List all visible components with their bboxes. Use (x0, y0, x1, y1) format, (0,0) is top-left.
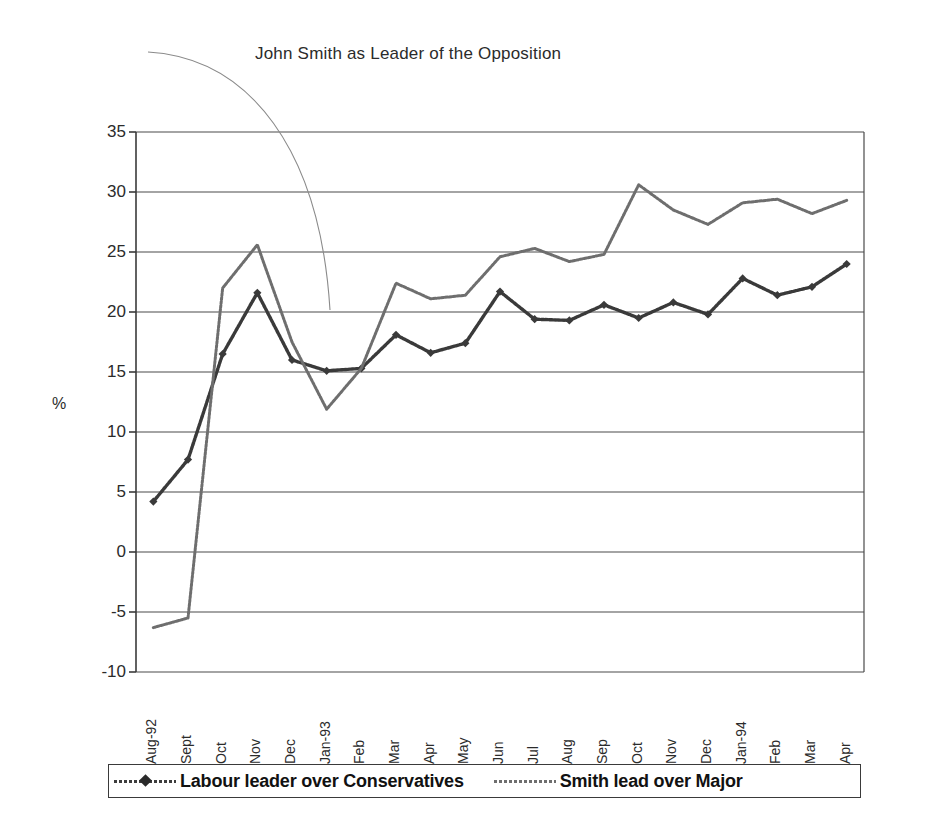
x-axis-tick-labels: Aug-92SeptOctNovDecJan-93FebMarAprMayJun… (0, 680, 930, 764)
series-line-labour (153, 264, 846, 502)
x-tick-label: Jan-94 (733, 721, 749, 764)
series-line-smith (153, 185, 846, 628)
legend-label-smith: Smith lead over Major (560, 771, 743, 792)
x-tick-label: Dec (698, 739, 714, 764)
annotation-leader-line (148, 52, 330, 310)
chart-container: John Smith as Leader of the Opposition %… (0, 0, 930, 834)
x-tick-label: May (455, 738, 471, 764)
x-tick-label: Sep (594, 739, 610, 764)
x-tick-label: Nov (247, 739, 263, 764)
legend-item-labour[interactable]: Labour leader over Conservatives (114, 771, 464, 792)
x-tick-label: Nov (663, 739, 679, 764)
x-tick-label: Mar (386, 740, 402, 764)
legend-marker-smith-icon (494, 776, 556, 786)
data-point-marker (323, 367, 331, 375)
x-tick-label: Apr (421, 742, 437, 764)
x-tick-label: Dec (282, 739, 298, 764)
x-tick-label: Jul (525, 746, 541, 764)
legend-item-smith[interactable]: Smith lead over Major (494, 771, 743, 792)
legend-marker-labour-icon (114, 776, 176, 786)
x-tick-label: Feb (351, 740, 367, 764)
legend-label-labour: Labour leader over Conservatives (180, 771, 464, 792)
x-tick-label: Jun (490, 741, 506, 764)
x-tick-label: Sept (178, 735, 194, 764)
x-tick-label: Oct (213, 742, 229, 764)
x-tick-label: Mar (802, 740, 818, 764)
x-tick-label: Feb (767, 740, 783, 764)
chart-legend: Labour leader over Conservatives Smith l… (108, 764, 861, 798)
x-tick-label: Oct (629, 742, 645, 764)
x-tick-label: Jan-93 (317, 721, 333, 764)
x-tick-label: Aug (559, 739, 575, 764)
x-tick-label: Aug-92 (143, 719, 159, 764)
x-tick-label: Apr (837, 742, 853, 764)
